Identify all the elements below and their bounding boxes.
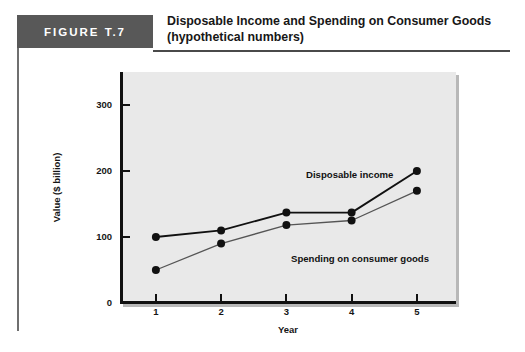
series-layer: [0, 0, 525, 352]
data-point-marker: [152, 266, 160, 274]
data-point-marker: [413, 187, 421, 195]
data-point-marker: [348, 217, 356, 225]
data-point-marker: [413, 167, 421, 175]
data-point-marker: [348, 209, 356, 217]
data-point-marker: [282, 221, 290, 229]
data-point-marker: [217, 240, 225, 248]
series-label-spending-on-consumer-goods: Spending on consumer goods: [291, 253, 429, 264]
figure-container: FIGURE T.7 Disposable Income and Spendin…: [0, 0, 525, 352]
data-point-marker: [152, 233, 160, 241]
data-point-marker: [282, 209, 290, 217]
data-point-marker: [217, 226, 225, 234]
series-label-disposable-income: Disposable income: [306, 169, 393, 180]
line-chart: 0100200300 12345 Value ($ billion) Year …: [0, 0, 525, 352]
